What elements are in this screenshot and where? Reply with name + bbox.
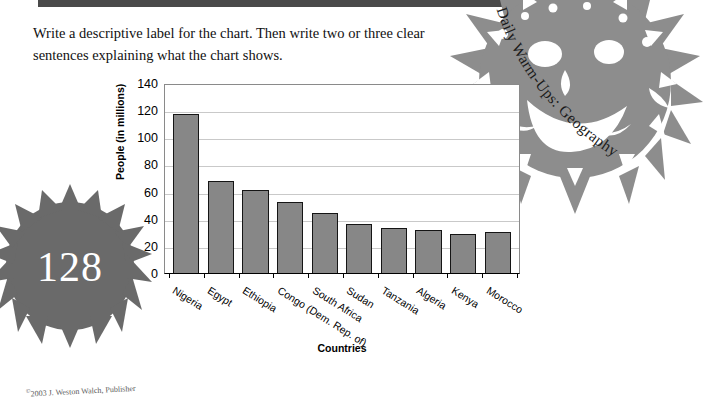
bar-slot (342, 85, 377, 273)
page-number-text: 128 (37, 244, 103, 290)
copyright-publisher: J. Weston Walch, Publisher (48, 384, 135, 398)
population-bar-chart: People (in millions) 020406080100120140 … (118, 84, 538, 369)
x-tick-label: Tanzania (380, 284, 422, 316)
bar-slot (411, 85, 446, 273)
copyright-notice: ©2003 J. Weston Walch, Publisher (26, 382, 136, 398)
bar-algeria (415, 230, 441, 273)
y-axis-tick-labels: 020406080100120140 (118, 84, 158, 274)
x-axis-title: Countries (164, 342, 520, 354)
y-tick-label: 140 (124, 77, 158, 91)
bar-slot (377, 85, 412, 273)
bar-kenya (450, 234, 476, 273)
prompt-line-2: sentences explaining what the chart show… (33, 44, 463, 66)
copyright-year: 2003 (30, 389, 46, 399)
bar-ethiopia (242, 190, 268, 273)
y-tick-label: 80 (124, 158, 158, 172)
y-tick-label: 40 (124, 213, 158, 227)
top-divider-rule (38, 0, 641, 7)
prompt-line-1: Write a descriptive label for the chart.… (33, 22, 463, 44)
bar-egypt (208, 181, 234, 273)
bar-slot (204, 85, 239, 273)
x-tick-label: Kenya (449, 284, 481, 310)
bar-slot (238, 85, 273, 273)
chart-bars (165, 85, 519, 273)
bar-sudan (346, 224, 372, 273)
bar-slot (273, 85, 308, 273)
x-tick-label: Nigeria (171, 284, 206, 312)
bar-slot (169, 85, 204, 273)
x-tick-label: Egypt (206, 284, 235, 308)
bar-south-africa (312, 213, 338, 273)
bar-slot (480, 85, 515, 273)
y-tick-label: 100 (124, 131, 158, 145)
x-tick-label: Ethiopia (241, 284, 280, 314)
bar-tanzania (381, 228, 407, 273)
bar-morocco (485, 232, 511, 273)
y-tick-label: 20 (124, 240, 158, 254)
chart-plot-area (164, 84, 520, 274)
prompt-text: Write a descriptive label for the chart.… (33, 22, 463, 66)
bar-slot (446, 85, 481, 273)
y-tick-label: 120 (124, 104, 158, 118)
y-tick-label: 60 (124, 186, 158, 200)
bar-nigeria (173, 114, 199, 273)
bar-congo-dem-rep-of (277, 202, 303, 273)
y-tick-label: 0 (124, 267, 158, 281)
x-tick-label: Morocco (484, 284, 525, 316)
bar-slot (307, 85, 342, 273)
